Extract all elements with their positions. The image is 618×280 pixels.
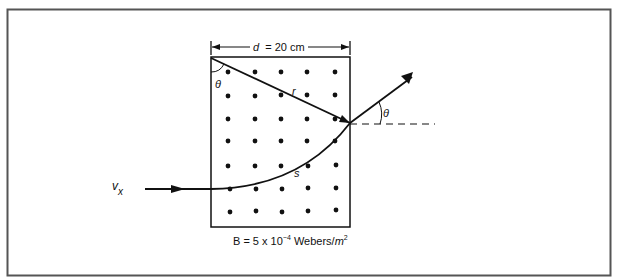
chord-r	[211, 58, 350, 123]
entry-angle-label: θ	[215, 78, 221, 90]
svg-text:d = 20 cm: d = 20 cm	[253, 41, 305, 53]
incoming-path	[145, 185, 211, 193]
figure-canvas: d = 20 cm θ θ r s vx B	[0, 0, 618, 280]
width-var: d	[253, 41, 260, 53]
field-strength-label: B = 5 x 10−4 Webers/m2	[233, 234, 348, 247]
velocity-label: vx	[112, 179, 124, 197]
chord-label: r	[292, 85, 297, 97]
entry-angle-arc	[211, 64, 224, 72]
width-dimension: d = 20 cm	[211, 41, 350, 55]
exit-angle-arc	[379, 102, 382, 124]
arc-label: s	[294, 167, 300, 179]
exit-angle-label: θ	[383, 107, 389, 119]
arc-path-s	[211, 123, 350, 189]
width-value: = 20 cm	[265, 41, 304, 53]
